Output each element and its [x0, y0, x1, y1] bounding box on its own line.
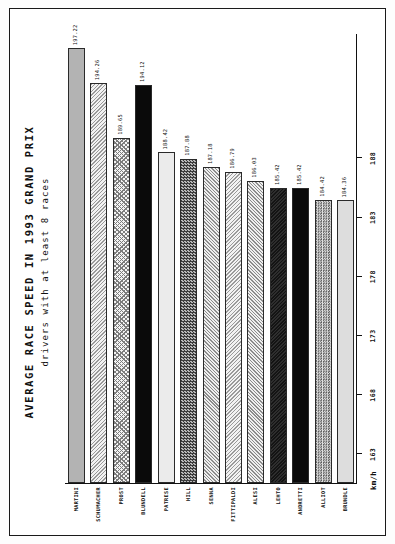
category-label: BRUNDLE	[337, 487, 354, 511]
chart-title: AVERAGE RACE SPEED IN 1993 GRAND PRIX	[23, 8, 35, 536]
bar	[68, 48, 85, 483]
bar	[203, 167, 220, 483]
category-label: LEHTO	[270, 487, 287, 504]
bar-value-label: 188.42	[157, 129, 174, 150]
bar	[113, 138, 130, 483]
bar-row: ALESI186.03	[247, 33, 264, 483]
bar-row: BLUNDELL194.12	[135, 33, 152, 483]
axis-tick-label: 163	[369, 448, 377, 461]
bar-row: FITTIPALDI186.79	[225, 33, 242, 483]
category-label: ANDRETTI	[292, 487, 309, 515]
bar-row: ANDRETTI185.42	[292, 33, 309, 483]
axis-tick	[357, 453, 362, 454]
bar	[225, 172, 242, 483]
bar	[135, 85, 152, 483]
category-label: PROST	[113, 487, 130, 504]
chart-subtitle: drivers with at least 8 races	[40, 8, 50, 536]
bar	[180, 159, 197, 483]
plot-area: km/h MARTINI197.22SCHUMACHER194.26PROST1…	[65, 34, 357, 484]
axis-tick	[357, 394, 362, 395]
bar-value-label: 194.26	[89, 60, 106, 81]
chart-title-block: AVERAGE RACE SPEED IN 1993 GRAND PRIX dr…	[23, 8, 50, 536]
category-label: MARTINI	[68, 487, 85, 511]
bar-value-label: 185.42	[291, 164, 308, 185]
bar-row: ALLIOT184.42	[315, 33, 332, 483]
bar	[337, 200, 354, 483]
axis-tick-label: 173	[369, 329, 377, 342]
bar-row: SCHUMACHER194.26	[90, 33, 107, 483]
category-label: SENNA	[203, 487, 220, 504]
bar-value-label: 184.36	[336, 177, 353, 198]
bar-row: PATRESE188.42	[158, 33, 175, 483]
bar-value-label: 197.22	[67, 24, 84, 45]
bar-row: HILL187.88	[180, 33, 197, 483]
bar-row: PROST189.65	[113, 33, 130, 483]
axis-tick-label: 178	[369, 270, 377, 283]
category-label: ALESI	[247, 487, 264, 504]
bar-row: MARTINI197.22	[68, 33, 85, 483]
axis-tick-label: 168	[369, 389, 377, 402]
category-label: BLUNDELL	[135, 487, 152, 515]
category-label: FITTIPALDI	[225, 487, 242, 522]
bar	[247, 181, 264, 483]
category-label: ALLIOT	[315, 487, 332, 508]
bar-chart: AVERAGE RACE SPEED IN 1993 GRAND PRIX dr…	[9, 8, 386, 536]
bar	[292, 188, 309, 483]
axis-tick-label: 183	[369, 211, 377, 224]
category-label: SCHUMACHER	[90, 487, 107, 522]
bar-row: LEHTO185.42	[270, 33, 287, 483]
value-axis-line	[356, 34, 357, 484]
axis-unit-label: km/h	[369, 471, 378, 490]
bar-value-label: 186.79	[224, 148, 241, 169]
category-label: PATRESE	[158, 487, 175, 511]
bar-row: BRUNDLE184.36	[337, 33, 354, 483]
bar-value-label: 184.42	[314, 176, 331, 197]
category-label: HILL	[180, 487, 197, 501]
bar-row: SENNA187.18	[203, 33, 220, 483]
bar	[158, 152, 175, 483]
bar-value-label: 187.18	[202, 143, 219, 164]
bar-value-label: 189.65	[112, 114, 129, 135]
bar-value-label: 187.88	[179, 135, 196, 156]
rotated-chart-wrapper: AVERAGE RACE SPEED IN 1993 GRAND PRIX dr…	[9, 8, 386, 536]
bar-value-label: 185.42	[269, 164, 286, 185]
printed-page: AVERAGE RACE SPEED IN 1993 GRAND PRIX dr…	[0, 0, 395, 544]
bar	[270, 188, 287, 483]
bar	[90, 83, 107, 483]
bar	[315, 200, 332, 483]
axis-tick	[357, 335, 362, 336]
axis-tick-label: 188	[369, 152, 377, 165]
bar-value-label: 186.03	[246, 157, 263, 178]
axis-tick	[357, 157, 362, 158]
bar-value-label: 194.12	[134, 61, 151, 82]
axis-tick	[357, 276, 362, 277]
axis-tick	[357, 217, 362, 218]
